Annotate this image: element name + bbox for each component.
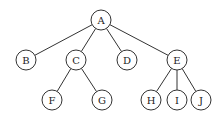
tree-diagram: ABCDEFGHIJ xyxy=(0,0,224,117)
edge-e-h xyxy=(156,68,171,91)
node-d: D xyxy=(117,50,137,70)
edge-a-c xyxy=(81,28,95,51)
node-h: H xyxy=(141,90,161,110)
node-g: G xyxy=(92,90,112,110)
node-label: E xyxy=(173,55,180,66)
node-i: I xyxy=(167,90,187,110)
node-f: F xyxy=(42,90,62,110)
edge-e-j xyxy=(182,69,196,92)
edge-a-d xyxy=(106,28,121,51)
node-label: B xyxy=(22,55,29,66)
node-label: G xyxy=(98,95,106,106)
nodes: ABCDEFGHIJ xyxy=(16,10,211,110)
node-a: A xyxy=(91,10,111,30)
node-label: C xyxy=(72,55,80,66)
node-b: B xyxy=(16,50,36,70)
node-e: E xyxy=(167,50,187,70)
edge-c-g xyxy=(81,68,96,91)
node-label: I xyxy=(175,95,179,106)
edge-c-f xyxy=(57,69,71,92)
node-label: F xyxy=(49,95,56,106)
node-c: C xyxy=(66,50,86,70)
node-label: D xyxy=(123,55,131,66)
node-label: J xyxy=(198,95,203,106)
edge-a-b xyxy=(35,25,92,56)
edge-a-e xyxy=(110,25,168,56)
node-label: A xyxy=(96,15,105,26)
node-j: J xyxy=(191,90,211,110)
node-label: H xyxy=(147,95,156,106)
